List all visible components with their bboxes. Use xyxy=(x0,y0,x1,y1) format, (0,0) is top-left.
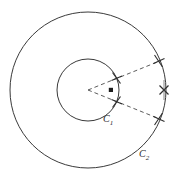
geometry-figure: C1 C2 xyxy=(0,0,179,178)
outer-circle-label: C2 xyxy=(139,149,149,162)
dashed-ray-lower xyxy=(88,90,160,119)
outer-circle-label-subscript: 2 xyxy=(146,154,150,162)
inner-circle-label-base: C xyxy=(103,113,110,124)
outer-circle-label-base: C xyxy=(139,148,146,159)
inner-upper-tick-icon xyxy=(112,73,123,84)
inner-circle-label-subscript: 1 xyxy=(110,119,114,127)
dashed-ray-upper xyxy=(88,61,160,90)
center-right-dot-icon xyxy=(109,88,113,92)
geometry-canvas xyxy=(0,0,179,178)
inner-lower-tick-icon xyxy=(112,97,123,108)
inner-circle-label: C1 xyxy=(103,114,113,127)
